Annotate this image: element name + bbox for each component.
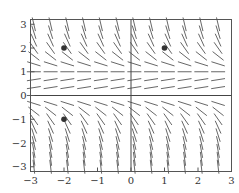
slope-segment	[27, 79, 41, 81]
slope-segment	[128, 62, 141, 66]
y-tick-label: 1	[20, 66, 26, 77]
slope-segment	[144, 87, 158, 89]
slope-segment	[211, 87, 225, 89]
slope-segment	[111, 62, 124, 66]
slope-segment	[111, 79, 125, 81]
solution-point	[61, 45, 67, 51]
slope-segment	[47, 114, 55, 125]
slope-segment	[147, 42, 155, 53]
slope-segment	[94, 62, 107, 66]
slope-segment	[144, 101, 157, 105]
slope-segment	[44, 101, 57, 105]
slope-segment	[211, 62, 224, 66]
slope-segment	[161, 62, 174, 66]
slope-segment	[144, 79, 158, 81]
slope-segment	[47, 42, 55, 53]
slope-segment	[77, 62, 90, 66]
x-tick-label: 2	[195, 175, 201, 186]
solution-points	[61, 45, 167, 122]
slope-segment	[128, 101, 141, 105]
slope-segment	[211, 79, 225, 81]
slope-segment	[27, 87, 41, 89]
slope-segment	[164, 114, 172, 125]
slope-segment	[60, 87, 74, 89]
slope-segment	[80, 42, 88, 53]
slope-segment	[94, 87, 108, 89]
slope-segment	[194, 79, 208, 81]
y-tick-label: 0	[20, 90, 26, 101]
slope-segment	[130, 114, 138, 125]
y-tick-label: −3	[12, 161, 27, 172]
slope-segment	[60, 79, 74, 81]
slope-segment	[144, 62, 157, 66]
slope-segment	[214, 42, 222, 53]
slope-segment	[27, 62, 40, 66]
slope-segment	[80, 114, 88, 125]
slope-segment	[44, 87, 58, 89]
x-tick-label: −2	[57, 175, 72, 186]
y-tick-label: −1	[12, 114, 27, 125]
x-tick-label: −3	[23, 175, 38, 186]
slope-segment	[195, 62, 208, 66]
y-tick-label: 3	[20, 19, 26, 30]
y-tick-label: −2	[12, 138, 27, 149]
slope-segment	[127, 87, 141, 89]
slope-segment	[27, 101, 40, 105]
slope-field-chart: −3−2−10123−3−2−10123	[0, 0, 239, 193]
slope-segment	[111, 101, 124, 105]
slope-segment	[194, 87, 208, 89]
slope-segment	[195, 101, 208, 105]
slope-segment	[178, 79, 192, 81]
slope-segment	[44, 62, 57, 66]
slope-segment	[97, 42, 105, 53]
slope-segment	[181, 42, 189, 53]
slope-segment	[178, 87, 192, 89]
slope-segment	[94, 101, 107, 105]
slope-segment	[178, 62, 191, 66]
slope-segment	[97, 114, 105, 125]
slope-segment	[114, 114, 122, 125]
y-tick-label: 2	[20, 43, 26, 54]
slope-segment	[61, 101, 74, 105]
slope-segment	[161, 87, 175, 89]
x-tick-label: −1	[90, 175, 105, 186]
slope-segment	[178, 101, 191, 105]
slope-segment	[214, 114, 222, 125]
slope-segment	[114, 42, 122, 53]
slope-segment	[181, 114, 189, 125]
slope-segment	[94, 79, 108, 81]
slope-segment	[130, 42, 138, 53]
solution-point	[162, 45, 168, 51]
slope-segment	[147, 114, 155, 125]
slope-segment	[77, 87, 91, 89]
slope-segment	[111, 87, 125, 89]
slope-segment	[61, 62, 74, 66]
slope-segment	[77, 79, 91, 81]
slope-segment	[77, 101, 90, 105]
slope-segment	[197, 42, 205, 53]
slope-segment	[197, 114, 205, 125]
slope-segment	[44, 79, 58, 81]
x-tick-label: 3	[228, 175, 234, 186]
x-tick-label: 0	[128, 175, 134, 186]
slope-segment	[127, 79, 141, 81]
slope-segment	[161, 79, 175, 81]
x-tick-label: 1	[161, 175, 167, 186]
slope-segment	[161, 101, 174, 105]
solution-point	[61, 116, 67, 122]
slope-segment	[211, 101, 224, 105]
